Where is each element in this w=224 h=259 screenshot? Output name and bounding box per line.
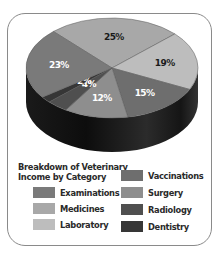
legend-swatch [33, 203, 55, 214]
legend-swatch [33, 219, 55, 230]
legend-label: Laboratory [60, 220, 108, 230]
pie-3d: 25%19%15%12%4%2%23% [26, 18, 198, 152]
legend-swatch [121, 204, 143, 215]
pie-label-vaccinations: 15% [135, 88, 155, 98]
legend-label: Radiology [148, 205, 192, 215]
pie-label-medicines: 25% [104, 32, 124, 42]
legend-swatch [121, 221, 143, 232]
pie-label-laboratory: 19% [155, 58, 175, 68]
legend-label: Medicines [60, 204, 104, 214]
pie-label-examinations: 23% [49, 60, 69, 70]
legend-title-line1: Breakdown of Veterinary [18, 162, 128, 172]
pie-label-surgery: 12% [92, 93, 112, 103]
legend-label: Vaccinations [148, 171, 204, 181]
legend-swatch [121, 187, 143, 198]
legend-item-laboratory: Laboratory [33, 219, 108, 230]
legend-title-line2: Income by Category [18, 172, 128, 182]
legend-swatch [121, 170, 143, 181]
legend-swatch [33, 187, 55, 198]
legend-item-medicines: Medicines [33, 203, 104, 214]
legend-item-examinations: Examinations [33, 187, 119, 198]
legend-item-surgery: Surgery [121, 187, 183, 198]
legend-label: Examinations [60, 188, 119, 198]
legend-label: Dentistry [148, 222, 189, 232]
legend-item-radiology: Radiology [121, 204, 192, 215]
legend-label: Surgery [148, 188, 183, 198]
legend-item-dentistry: Dentistry [121, 221, 189, 232]
legend-item-vaccinations: Vaccinations [121, 170, 204, 181]
legend-title: Breakdown of Veterinary Income by Catego… [18, 162, 128, 182]
